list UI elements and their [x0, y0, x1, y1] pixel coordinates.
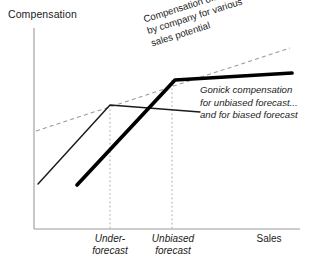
annotation-gonick-compensation: Gonick compensation for unbiased forecas…	[200, 84, 316, 122]
x-tick-under-forecast: Under- forecast	[78, 233, 142, 257]
gonick-unbiased-line	[38, 105, 200, 184]
x-axis-title-sales: Sales	[244, 233, 294, 245]
x-tick-unbiased-forecast: Unbiased forecast	[140, 233, 206, 257]
y-axis-title: Compensation	[8, 8, 77, 20]
chart-figure: Compensation Under- forecast Unbiased fo…	[0, 0, 316, 268]
